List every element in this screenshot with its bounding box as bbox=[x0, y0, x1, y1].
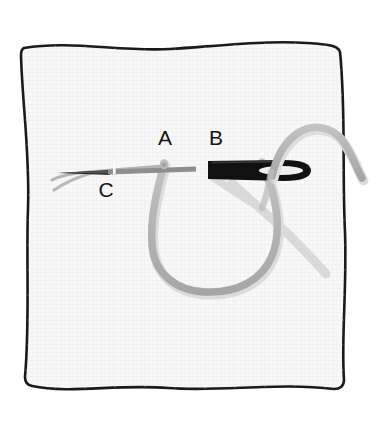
fabric-swatch bbox=[21, 42, 348, 392]
stitch-diagram-container: A B C bbox=[0, 0, 381, 424]
point-label-b: B bbox=[209, 126, 223, 149]
point-label-c: C bbox=[98, 178, 113, 201]
needle-entry-tick bbox=[113, 163, 116, 174]
point-label-a: A bbox=[158, 126, 172, 149]
needle-highlight bbox=[212, 162, 276, 163]
point-a-knot-core bbox=[162, 163, 166, 167]
stitch-illustration: A B C bbox=[0, 0, 381, 424]
